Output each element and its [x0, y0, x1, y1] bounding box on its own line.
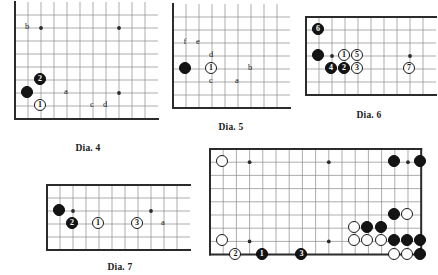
- stone-white: [401, 248, 413, 260]
- stone-white-1: 1: [338, 49, 350, 61]
- stone-number: 2: [38, 75, 42, 83]
- stone-black-1: 1: [256, 248, 268, 260]
- caption-dia-7: Dia. 7: [46, 262, 194, 272]
- stone-white: [388, 248, 400, 260]
- stone-black-2: 2: [34, 73, 46, 85]
- stone-black: [388, 155, 400, 167]
- stone-white: [375, 234, 387, 246]
- stone-black: [414, 155, 426, 167]
- point-label-f: f: [181, 37, 190, 46]
- caption-dia-6: Dia. 6: [305, 110, 433, 120]
- stone-white-1: 1: [34, 99, 46, 111]
- stone-number: 4: [329, 64, 333, 72]
- go-diagram-dia-6: 6421537: [305, 16, 423, 95]
- caption-dia-5: Dia. 5: [172, 122, 290, 132]
- stone-number: 3: [355, 64, 359, 72]
- stone-number: 2: [342, 64, 346, 72]
- stone-number: 2: [70, 219, 74, 227]
- stone-number: 7: [407, 64, 411, 72]
- stone-white-2: 2: [229, 248, 241, 260]
- stone-number: 1: [96, 219, 100, 227]
- stone-white-3: 3: [351, 62, 363, 74]
- stone-black: [414, 234, 426, 246]
- stone-number: 1: [209, 64, 213, 72]
- stone-number: 1: [260, 250, 264, 258]
- diagram-page: 21bacdDia. 41fedcabDia. 56421537Dia. 621…: [0, 0, 438, 275]
- point-label-d: d: [207, 50, 216, 59]
- point-label-a: a: [62, 87, 71, 96]
- point-label-d: d: [101, 100, 110, 109]
- stone-white-3: 3: [131, 217, 143, 229]
- stone-black-4: 4: [325, 62, 337, 74]
- go-diagram-dia-5: 1fedcab: [172, 16, 277, 108]
- go-diagram-dia-main: 213: [209, 148, 421, 255]
- stone-number: 3: [299, 250, 303, 258]
- stone-number: 1: [342, 51, 346, 59]
- stone-number: 1: [38, 101, 42, 109]
- point-label-b: b: [23, 22, 32, 31]
- go-diagram-dia-4: 21bacd: [14, 14, 145, 119]
- point-label-b: b: [246, 63, 255, 72]
- caption-dia-4: Dia. 4: [14, 143, 162, 153]
- point-label-c: c: [88, 100, 97, 109]
- point-label-a: a: [159, 218, 168, 227]
- stone-black-2: 2: [338, 62, 350, 74]
- point-label-e: e: [194, 37, 203, 46]
- point-label-a: a: [233, 76, 242, 85]
- board-surface: [46, 184, 177, 250]
- stone-black: [53, 204, 65, 216]
- stone-black: [179, 62, 191, 74]
- stone-white: [401, 208, 413, 220]
- stone-number: 6: [316, 25, 320, 33]
- stone-black: [312, 49, 324, 61]
- stone-white-1: 1: [92, 217, 104, 229]
- stone-black: [414, 248, 426, 260]
- stone-number: 2: [233, 250, 237, 258]
- stone-white-5: 5: [351, 49, 363, 61]
- stone-number: 3: [135, 219, 139, 227]
- stone-white-1: 1: [205, 62, 217, 74]
- stone-black: [375, 221, 387, 233]
- stone-white-7: 7: [403, 62, 415, 74]
- stone-black-3: 3: [295, 248, 307, 260]
- stone-black-6: 6: [312, 23, 324, 35]
- stone-black-2: 2: [66, 217, 78, 229]
- point-label-c: c: [207, 76, 216, 85]
- stone-number: 5: [355, 51, 359, 59]
- go-diagram-dia-7: 213a: [46, 184, 177, 250]
- stone-black: [388, 208, 400, 220]
- stone-black: [21, 86, 33, 98]
